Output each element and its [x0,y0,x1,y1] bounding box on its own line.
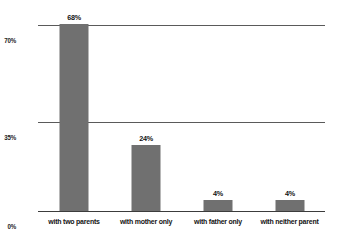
x-axis-category-labels: with two parents with mother only with f… [38,216,325,234]
bar-series: 68% 24% 4% 4% [38,18,325,212]
x-axis-label-with-father-only: with father only [185,216,251,228]
x-axis-label-with-two-parents: with two parents [41,216,107,228]
y-axis-tick-label-0: 0% [0,223,16,230]
bar-slot-with-two-parents: 68% [38,18,110,211]
plot-area: 70% 35% 0% 68% 24% 4% 4% [38,18,325,212]
x-axis-label-with-mother-only: with mother only [113,216,179,228]
bar-with-two-parents[interactable] [60,24,89,211]
bar-value-label: 4% [213,190,223,198]
bar-value-label: 24% [139,135,153,143]
bar-value-label: 4% [285,190,295,198]
x-axis-label-with-neither-parent: with neither parent [257,216,322,228]
bar-slot-with-father-only: 4% [182,18,254,211]
bar-with-mother-only[interactable] [132,145,161,211]
bar-with-father-only[interactable] [204,200,233,211]
bar-slot-with-neither-parent: 4% [254,18,325,211]
y-axis-tick-label-70: 70% [0,37,16,44]
bar-with-neither-parent[interactable] [275,200,304,211]
y-axis-tick-label-35: 35% [0,134,16,141]
bar-slot-with-mother-only: 24% [110,18,182,211]
bar-value-label: 68% [67,14,81,22]
bar-chart: 70% 35% 0% 68% 24% 4% 4% with two parent… [0,0,338,248]
